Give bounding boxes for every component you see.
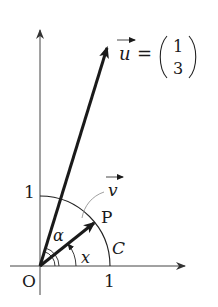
origin-label: O — [22, 271, 36, 291]
x-axis-tick-1: 1 — [104, 271, 115, 291]
diagram-canvas: O 1 1 P C x α v u = 1 3 — [0, 0, 218, 307]
equals-sign: = — [137, 43, 152, 64]
curve-c-label: C — [112, 238, 125, 258]
point-p-label: P — [101, 207, 112, 227]
angle-x-arc — [68, 244, 76, 266]
u-component-1: 1 — [173, 37, 183, 56]
angle-alpha-label: α — [53, 226, 64, 245]
left-paren — [160, 36, 167, 78]
right-paren — [189, 36, 196, 78]
y-axis-tick-1: 1 — [24, 182, 35, 202]
vector-u-label: u — [119, 43, 131, 64]
angle-x-label: x — [81, 248, 90, 267]
vector-u-arrow — [40, 48, 107, 266]
u-component-2: 3 — [173, 59, 183, 78]
vector-v-label: v — [108, 180, 118, 200]
